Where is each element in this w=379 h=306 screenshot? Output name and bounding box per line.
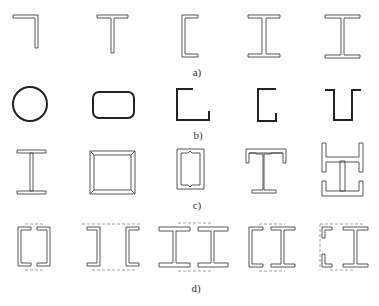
t-section	[97, 15, 128, 53]
channel-section	[182, 15, 198, 57]
angles-and-i-beam-section	[320, 224, 368, 270]
row-b-label: b)	[193, 129, 202, 141]
two-i-beams-section	[159, 223, 228, 271]
row-c-label: c)	[193, 199, 202, 211]
welded-i-section	[17, 150, 46, 194]
i-beam-section	[248, 15, 280, 57]
thin-angle-section	[177, 89, 209, 120]
circular-tube-section	[13, 87, 47, 121]
cross-sections-figure	[0, 0, 379, 306]
row-a-label: a)	[193, 66, 202, 78]
rounded-rect-tube-section	[93, 92, 134, 118]
t-with-channel-caps-section	[246, 149, 286, 193]
thin-channel-section	[258, 89, 276, 121]
lipped-channel-box-section	[177, 149, 204, 189]
welded-box-section	[90, 151, 135, 194]
angle-section	[13, 15, 38, 48]
wide-flange-i-beam-section	[325, 15, 360, 58]
channel-and-i-beam-section	[249, 224, 295, 271]
two-channels-toes-out-section	[82, 224, 142, 270]
two-channels-toes-in-section	[18, 224, 50, 270]
row-d-label: d)	[191, 282, 200, 294]
cruciform-built-up-section	[322, 143, 363, 196]
hat-section	[325, 90, 361, 120]
